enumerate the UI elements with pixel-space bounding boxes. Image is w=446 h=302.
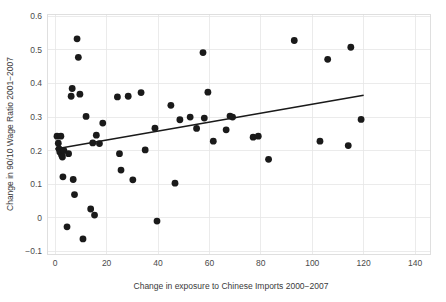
data-point [80, 235, 87, 242]
x-axis-title: Change in exposure to Chinese Imports 20… [134, 281, 329, 291]
data-point [193, 125, 200, 132]
data-point [99, 120, 106, 127]
data-point [176, 116, 183, 123]
y-tick-label: 0 [37, 213, 42, 223]
data-point [317, 138, 324, 145]
data-point [71, 191, 78, 198]
data-point [118, 167, 125, 174]
y-tick-label: 0.2 [30, 146, 42, 156]
data-point [74, 35, 81, 42]
data-point [223, 126, 230, 133]
y-tick-label: 0.6 [30, 11, 42, 21]
data-point [96, 140, 103, 147]
data-point [324, 56, 331, 63]
data-point [152, 125, 159, 132]
data-point [76, 91, 83, 98]
data-point [154, 218, 161, 225]
data-point [345, 142, 352, 149]
data-point [129, 176, 136, 183]
x-tick-label: 20 [102, 258, 112, 268]
data-point [91, 212, 98, 219]
data-point [116, 150, 123, 157]
data-point [201, 115, 208, 122]
data-point [187, 114, 194, 121]
data-point [167, 102, 174, 109]
scatter-chart-figure: 020406080100120140 −0.100.10.20.30.40.50… [0, 0, 446, 302]
y-tick-label: 0.5 [30, 45, 42, 55]
data-point [291, 37, 298, 44]
data-point [347, 44, 354, 51]
x-tick-label: 80 [256, 258, 266, 268]
data-point [255, 133, 262, 140]
data-point [138, 89, 145, 96]
data-point [142, 147, 149, 154]
data-point [172, 180, 179, 187]
data-point [55, 140, 62, 147]
x-tick-label: 40 [153, 258, 163, 268]
x-tick-label: 60 [205, 258, 215, 268]
data-point [69, 85, 76, 92]
data-point [75, 54, 82, 61]
data-point [87, 206, 94, 213]
y-tick-label: 0.1 [30, 179, 42, 189]
y-axis-title: Change in 90/10 Wage Ratio 2001−2007 [5, 57, 15, 211]
y-tick-label: 0.4 [30, 78, 42, 88]
x-tick-label: 100 [305, 258, 319, 268]
data-point [93, 132, 100, 139]
data-point [229, 114, 236, 121]
data-point [60, 173, 67, 180]
data-point [204, 89, 211, 96]
data-point [59, 154, 66, 161]
data-point [70, 176, 77, 183]
y-tick-label: −0.1 [25, 246, 42, 256]
data-point [200, 49, 207, 56]
x-tick-label: 120 [357, 258, 371, 268]
data-point [83, 113, 90, 120]
y-tick-label: 0.3 [30, 112, 42, 122]
data-point [68, 93, 75, 100]
data-point [210, 138, 217, 145]
data-point [65, 150, 72, 157]
data-point [57, 133, 64, 140]
gridlines-group [48, 14, 431, 254]
y-axis-tick-labels: −0.100.10.20.30.40.50.6 [25, 11, 42, 256]
data-point [64, 223, 71, 230]
data-point [358, 116, 365, 123]
data-point [265, 156, 272, 163]
x-tick-label: 140 [408, 258, 422, 268]
data-point [89, 139, 96, 146]
chart-svg: 020406080100120140 −0.100.10.20.30.40.50… [0, 0, 446, 302]
x-tick-label: 0 [53, 258, 58, 268]
data-point [125, 93, 132, 100]
data-point [114, 94, 121, 101]
x-axis-tick-labels: 020406080100120140 [53, 258, 423, 268]
